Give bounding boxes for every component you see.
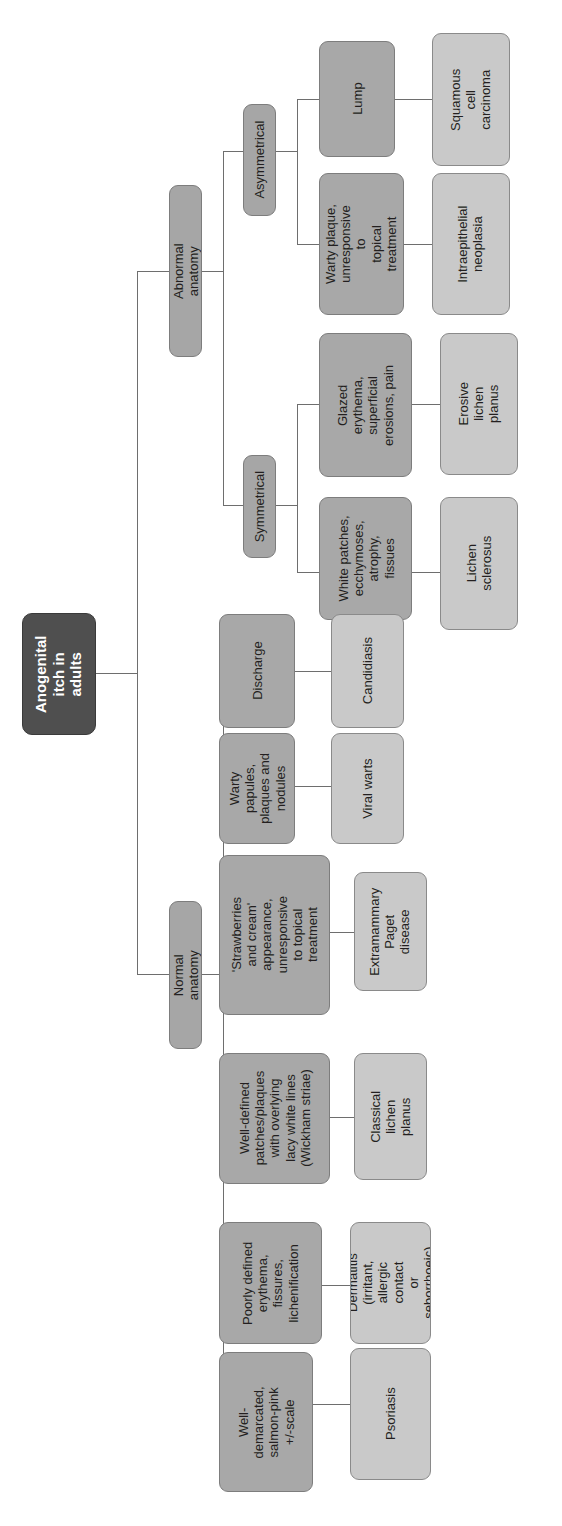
connector-symmetrical-whitepatches (297, 572, 319, 573)
node-diagnosis-erosive-lichen-planus[interactable]: Erosive lichen planus (440, 333, 518, 475)
node-asymmetrical-label: Asymmetrical (252, 121, 267, 199)
node-feature-poorly-defined-label: Poorly defined erythema, fissures, liche… (240, 1241, 301, 1324)
connector-trunk-abnormal (137, 271, 169, 272)
connector-asymmetrical-lump (297, 99, 319, 100)
connector-abnormal-asymmetrical (223, 151, 243, 152)
node-diagnosis-classical-lichen-planus-label: Classical lichen planus (368, 1081, 414, 1152)
node-diagnosis-classical-lichen-planus[interactable]: Classical lichen planus (354, 1053, 427, 1180)
connector-wartyplaque-vin (404, 244, 432, 245)
node-feature-warty-papules[interactable]: Warty papules, plaques and nodules (219, 733, 295, 844)
node-asymmetrical[interactable]: Asymmetrical (243, 104, 276, 216)
connector-asymmetrical-split (297, 99, 298, 245)
node-diagnosis-erosive-lichen-planus-label: Erosive lichen planus (456, 366, 502, 442)
node-feature-wickham-striae-label: Well-defined patches/plaques with overly… (236, 1070, 312, 1168)
connector-trunk-normal (137, 974, 169, 975)
node-abnormal-anatomy[interactable]: Abnormal anatomy (169, 185, 202, 357)
node-feature-discharge-label: Discharge (249, 642, 264, 701)
node-diagnosis-dermatitis-label: Dermatitis (irritant, allergic contact o… (350, 1244, 431, 1323)
connector-abnormal-out (202, 271, 224, 272)
node-feature-white-patches-label: White patches, ecchymoses, atrophy, fiss… (335, 516, 396, 602)
connector-asymmetrical-wartyplaque (297, 244, 319, 245)
connector-abnormal-symmetrical (223, 505, 243, 506)
connector-whitepatches-lichensclerosus (412, 572, 440, 573)
node-diagnosis-viral-warts-label: Viral warts (360, 758, 375, 818)
connector-trunk-vertical (137, 271, 138, 974)
node-diagnosis-squamous-cell-carcinoma[interactable]: Squamous cell carcinoma (432, 33, 510, 166)
connector-symmetrical-glazed (297, 404, 319, 405)
node-feature-warty-plaque[interactable]: Warty plaque, unresponsive to topical tr… (319, 173, 404, 315)
connector-poorlydefined-dermatitis (322, 1285, 350, 1286)
node-feature-warty-papules-label: Warty papules, plaques and nodules (227, 752, 288, 826)
node-diagnosis-extramammary-paget[interactable]: Extramammary Paget disease (354, 872, 427, 991)
node-feature-glazed-erythema[interactable]: Glazed erythema, superficial erosions, p… (319, 333, 412, 477)
flowchart-canvas: Anogenital itch in adults Abnormal anato… (0, 0, 562, 1526)
node-feature-white-patches[interactable]: White patches, ecchymoses, atrophy, fiss… (319, 497, 412, 620)
node-feature-lump-label: Lump (349, 83, 364, 116)
node-diagnosis-intraepithelial-neoplasia-label: Intraepithelial neoplasia (456, 205, 486, 282)
node-normal-anatomy[interactable]: Normal anatomy (169, 901, 202, 1049)
connector-root-trunk (96, 673, 138, 674)
node-feature-glazed-erythema-label: Glazed erythema, superficial erosions, p… (335, 360, 396, 451)
node-feature-wickham-striae[interactable]: Well-defined patches/plaques with overly… (219, 1053, 330, 1184)
connector-asymmetrical-out (276, 151, 298, 152)
connector-welldemarcated-psoriasis (313, 1404, 350, 1405)
node-diagnosis-psoriasis-label: Psoriasis (383, 1388, 398, 1441)
connector-glazed-erosivelp (412, 404, 440, 405)
node-feature-warty-plaque-label: Warty plaque, unresponsive to topical tr… (323, 202, 399, 285)
node-symmetrical-label: Symmetrical (252, 471, 267, 543)
node-diagnosis-candidiasis[interactable]: Candidiasis (331, 614, 404, 728)
connector-discharge-candidiasis (295, 671, 331, 672)
node-symmetrical[interactable]: Symmetrical (243, 455, 276, 558)
node-diagnosis-extramammary-paget-label: Extramammary Paget disease (368, 887, 414, 975)
node-diagnosis-viral-warts[interactable]: Viral warts (331, 733, 404, 844)
node-root[interactable]: Anogenital itch in adults (22, 613, 96, 735)
node-abnormal-anatomy-label: Abnormal anatomy (170, 243, 200, 299)
node-diagnosis-lichen-sclerosus-label: Lichen sclerosus (464, 536, 494, 591)
connector-lump-scc (395, 99, 432, 100)
connector-strawberries-paget (330, 932, 354, 933)
node-diagnosis-candidiasis-label: Candidiasis (360, 637, 375, 704)
node-normal-anatomy-label: Normal anatomy (170, 950, 200, 1000)
connector-abnormal-split (223, 151, 224, 506)
node-diagnosis-psoriasis[interactable]: Psoriasis (350, 1348, 431, 1480)
node-feature-well-demarcated[interactable]: Well-demarcated, salmon-pink +/-scale (219, 1352, 313, 1492)
node-diagnosis-dermatitis[interactable]: Dermatitis (irritant, allergic contact o… (350, 1222, 431, 1344)
node-feature-lump[interactable]: Lump (319, 41, 395, 157)
node-diagnosis-lichen-sclerosus[interactable]: Lichen sclerosus (440, 497, 518, 630)
connector-wartypapules-viralwarts (295, 786, 331, 787)
node-feature-well-demarcated-label: Well-demarcated, salmon-pink +/-scale (236, 1376, 297, 1468)
node-feature-strawberries-cream[interactable]: 'Strawberries and cream' appearance, unr… (219, 855, 330, 1015)
node-diagnosis-intraepithelial-neoplasia[interactable]: Intraepithelial neoplasia (432, 173, 510, 315)
connector-symmetrical-split (297, 404, 298, 572)
connector-wickham-classicallp (330, 1117, 354, 1118)
connector-symmetrical-out (276, 505, 298, 506)
node-feature-strawberries-cream-label: 'Strawberries and cream' appearance, unr… (229, 896, 320, 973)
node-diagnosis-squamous-cell-carcinoma-label: Squamous cell carcinoma (448, 61, 494, 137)
node-feature-poorly-defined[interactable]: Poorly defined erythema, fissures, liche… (219, 1222, 322, 1344)
node-root-label: Anogenital itch in adults (33, 635, 86, 713)
node-feature-discharge[interactable]: Discharge (219, 614, 295, 728)
